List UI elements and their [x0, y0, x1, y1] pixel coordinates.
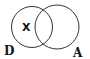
- set-a-label: A: [73, 47, 82, 59]
- set-d-label: D: [4, 45, 14, 57]
- region-marker-x: X: [22, 22, 30, 33]
- set-a-circle: [35, 5, 79, 49]
- set-d-circle: [12, 7, 53, 48]
